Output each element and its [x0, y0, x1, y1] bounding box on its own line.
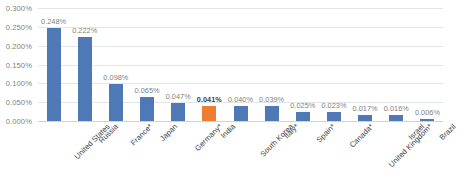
y-axis-tick-label: 0.200% — [6, 41, 32, 50]
bar[interactable] — [109, 84, 123, 121]
y-axis-tick-label: 0.050% — [6, 98, 32, 107]
bar[interactable] — [327, 112, 341, 121]
bar[interactable] — [234, 106, 248, 121]
bar[interactable] — [140, 97, 154, 121]
x-axis-tick-label: Japan — [158, 122, 179, 143]
y-axis-tick-label: 0.250% — [6, 22, 32, 31]
bar-value-label: 0.047% — [166, 92, 191, 101]
bar-value-label: 0.017% — [353, 104, 378, 113]
y-axis-tick-label: 0.100% — [6, 79, 32, 88]
y-axis: 0.000%0.050%0.100%0.150%0.200%0.250%0.30… — [0, 0, 36, 129]
bar-column[interactable]: 0.041% — [202, 8, 216, 121]
bar-value-label: 0.023% — [321, 101, 346, 110]
plot-area: 0.248%0.222%0.098%0.065%0.047%0.041%0.04… — [38, 8, 443, 121]
bar[interactable] — [420, 119, 434, 121]
bar-highlighted[interactable] — [202, 106, 216, 121]
y-axis-tick-label: 0.150% — [6, 60, 32, 69]
bar[interactable] — [358, 115, 372, 121]
bar-value-label: 0.065% — [135, 86, 160, 95]
bar-column[interactable]: 0.222% — [78, 8, 92, 121]
bar-value-label: 0.016% — [384, 104, 409, 113]
bar-column[interactable]: 0.039% — [265, 8, 279, 121]
y-axis-tick-label: 0.000% — [6, 117, 32, 126]
bar-value-label: 0.041% — [197, 95, 222, 104]
bar-column[interactable]: 0.006% — [420, 8, 434, 121]
x-axis-category-labels: United StatesRussiaFrance*JapanGermany*I… — [38, 122, 443, 192]
bar-column[interactable]: 0.040% — [234, 8, 248, 121]
x-axis-tick-label: Canada* — [348, 122, 376, 150]
bar-value-label: 0.222% — [72, 26, 97, 35]
bar-column[interactable]: 0.098% — [109, 8, 123, 121]
x-axis-tick-label: France* — [129, 122, 154, 147]
bar-value-label: 0.040% — [228, 95, 253, 104]
bar-value-label: 0.025% — [290, 101, 315, 110]
bar-column[interactable]: 0.065% — [140, 8, 154, 121]
bar-column[interactable]: 0.016% — [389, 8, 403, 121]
bar-column[interactable]: 0.248% — [47, 8, 61, 121]
x-axis-tick-label: India — [219, 122, 237, 140]
bar[interactable] — [171, 103, 185, 121]
bar-column[interactable]: 0.025% — [296, 8, 310, 121]
x-axis-tick-label: Spain* — [314, 122, 336, 144]
bar[interactable] — [389, 115, 403, 121]
bar-column[interactable]: 0.047% — [171, 8, 185, 121]
bar[interactable] — [265, 106, 279, 121]
bar-column[interactable]: 0.017% — [358, 8, 372, 121]
bar[interactable] — [296, 112, 310, 121]
bar-value-label: 0.039% — [259, 95, 284, 104]
bar[interactable] — [78, 37, 92, 121]
x-axis-tick-label: United Kingdom* — [387, 122, 434, 169]
bar-value-label: 0.098% — [103, 73, 128, 82]
y-axis-tick-label: 0.300% — [6, 4, 32, 13]
bar-value-label: 0.006% — [415, 108, 440, 117]
bar-column[interactable]: 0.023% — [327, 8, 341, 121]
bar-value-label: 0.248% — [41, 17, 66, 26]
bar[interactable] — [47, 28, 61, 121]
x-axis-tick-label: Brazil — [438, 122, 458, 142]
x-axis-tick-label: Germany* — [193, 122, 224, 153]
